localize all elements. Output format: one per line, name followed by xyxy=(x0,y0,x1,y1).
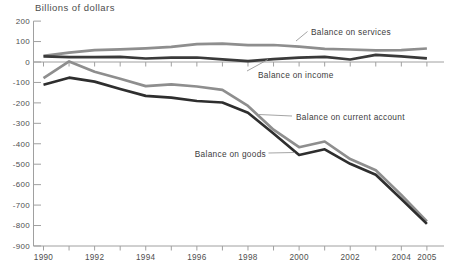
y-tick-label: -600 xyxy=(13,180,30,189)
x-tick-label: 1998 xyxy=(238,253,258,262)
y-tick-label: 0 xyxy=(25,58,30,67)
series-line-balance-on-current-account xyxy=(44,61,427,221)
y-tick-label: -400 xyxy=(13,140,30,149)
annotation-pointer-balance-on-current-account xyxy=(259,115,292,117)
y-tick-label: -700 xyxy=(13,201,30,210)
x-tick-label: 1996 xyxy=(187,253,207,262)
annotation-label-balance-on-current-account: Balance on current account xyxy=(296,112,405,122)
chart-container: Billions of dollars 2001000-100-200-300-… xyxy=(0,0,450,275)
x-tick-label: 1992 xyxy=(85,253,105,262)
x-tick-label: 2002 xyxy=(341,253,361,262)
annotation-pointer-balance-on-goods xyxy=(269,153,295,154)
x-tick-label: 1994 xyxy=(136,253,156,262)
x-tick-label: 2005 xyxy=(417,253,437,262)
annotation-pointer-balance-on-services xyxy=(296,32,308,42)
x-tick-label: 2004 xyxy=(392,253,412,262)
series-line-balance-on-services xyxy=(44,44,427,56)
y-tick-label: 100 xyxy=(16,37,30,46)
y-tick-label: -900 xyxy=(13,242,30,251)
annotation-label-balance-on-goods: Balance on goods xyxy=(195,149,266,159)
y-tick-label: -800 xyxy=(13,221,30,230)
y-tick-label: -100 xyxy=(13,78,30,87)
x-tick-label: 1990 xyxy=(34,253,54,262)
series-line-balance-on-income xyxy=(44,55,427,61)
y-tick-label: 200 xyxy=(16,17,30,26)
x-tick-label: 2000 xyxy=(289,253,309,262)
annotation-label-balance-on-income: Balance on income xyxy=(258,70,334,80)
line-chart: 2001000-100-200-300-400-500-600-700-800-… xyxy=(0,0,450,275)
y-tick-label: -500 xyxy=(13,160,30,169)
y-tick-label: -200 xyxy=(13,99,30,108)
annotation-label-balance-on-services: Balance on services xyxy=(311,27,391,37)
y-tick-label: -300 xyxy=(13,119,30,128)
